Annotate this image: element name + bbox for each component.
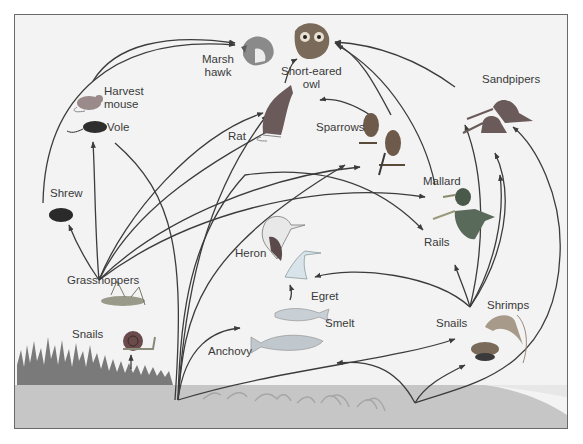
label-marsh-hawk-line1: Marsh — [202, 53, 234, 66]
snail-land-figure — [123, 331, 155, 351]
shrew-figure — [49, 208, 73, 222]
anchovy-figure — [251, 335, 323, 353]
label-sandpipers: Sandpipers — [482, 73, 540, 86]
smelt-figure — [275, 309, 329, 322]
snails-water-figure — [471, 342, 499, 361]
ground — [15, 385, 567, 428]
short-eared-owl-figure — [295, 23, 330, 59]
harvest-mouse-figure — [74, 95, 103, 112]
label-marsh-hawk: Marsh hawk — [202, 53, 234, 79]
label-short-eared-owl: Short-eared owl — [281, 65, 342, 91]
food-web-diagram: Marsh hawk Short-eared owl Harvest mouse… — [14, 14, 568, 429]
vole-figure — [67, 121, 107, 133]
label-harvest-mouse-line1: Harvest — [104, 85, 144, 98]
label-heron: Heron — [235, 247, 266, 260]
egret-figure — [285, 251, 321, 279]
label-grasshoppers: Grasshoppers — [67, 274, 139, 287]
label-egret: Egret — [311, 290, 339, 303]
mallard-figure — [433, 188, 495, 239]
sandpipers-figure — [463, 100, 533, 133]
label-rails: Rails — [424, 236, 450, 249]
label-snails-water: Snails — [436, 317, 467, 330]
label-vole: Vole — [107, 121, 129, 134]
label-marsh-hawk-line2: hawk — [202, 66, 234, 79]
label-rat: Rat — [228, 130, 246, 143]
label-owl-line1: Short-eared — [281, 65, 342, 78]
label-owl-line2: owl — [281, 78, 342, 91]
label-anchovy: Anchovy — [208, 345, 252, 358]
label-mallard: Mallard — [423, 175, 461, 188]
label-smelt: Smelt — [325, 317, 354, 330]
label-snails-land: Snails — [72, 328, 103, 341]
marsh-grass — [17, 337, 173, 385]
sparrows-figure — [359, 113, 405, 175]
label-harvest-mouse-line2: mouse — [104, 98, 144, 111]
label-harvest-mouse: Harvest mouse — [104, 85, 144, 111]
marsh-hawk-figure — [241, 37, 274, 66]
heron-figure — [262, 216, 305, 261]
label-shrimps: Shrimps — [487, 299, 529, 312]
label-shrew: Shrew — [50, 187, 83, 200]
label-sparrows: Sparrows — [316, 121, 365, 134]
